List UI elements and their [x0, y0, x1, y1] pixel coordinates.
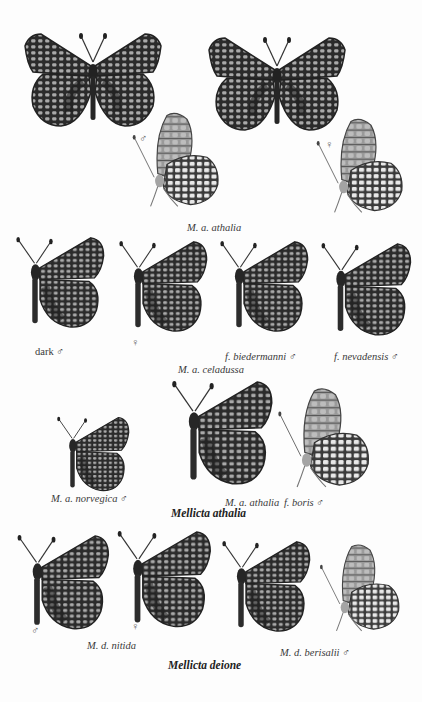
athalia-female-underside [314, 116, 406, 216]
label-berisalii: M. d. berisalii ♂ [280, 648, 350, 659]
deione-berisalii-male-underside [318, 536, 402, 640]
athalia-male-underside [130, 110, 222, 210]
celadussa-nevadensis-male [316, 242, 416, 344]
celadussa-biedermanni-male [216, 240, 312, 340]
celadussa-dark-male [12, 236, 108, 336]
species-title-mellicta-deione: Mellicta deione [168, 660, 241, 672]
athalia-boris-male-underside [276, 378, 372, 498]
label-norvegica: M. a. norvegica ♂ [51, 494, 128, 505]
label-nevadensis: f. nevadensis ♂ [334, 352, 399, 363]
female-symbol: ♀ [325, 139, 333, 150]
deione-nitida-male [14, 534, 112, 638]
species-title-mellicta-athalia: Mellicta athalia [171, 508, 246, 520]
norvegica-male [55, 416, 131, 498]
butterfly-plate: ♂ ♀ M. a. athalia dark ♂ ♀ f. biedermann… [0, 0, 422, 702]
deione-berisalii-male-upperside [218, 540, 314, 640]
caption-m-a-celadussa: M. a. celadussa [178, 365, 244, 376]
celadussa-female [114, 240, 212, 340]
male-symbol: ♂ [139, 133, 147, 144]
athalia-boris-male-upperside [170, 380, 274, 494]
label-nitida: M. d. nitida [87, 641, 136, 652]
caption-m-a-athalia: M. a. athalia [187, 223, 241, 234]
female-symbol: ♀ [131, 337, 139, 348]
female-symbol: ♀ [131, 621, 139, 632]
male-symbol: ♂ [31, 625, 39, 636]
deione-nitida-female [114, 530, 214, 636]
label-biedermanni: f. biedermanni ♂ [225, 352, 297, 363]
label-dark-male: dark ♂ [35, 347, 64, 358]
